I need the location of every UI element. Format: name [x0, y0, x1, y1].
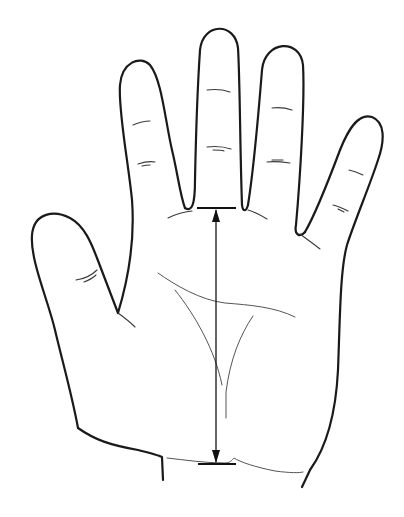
middle-finger-outline — [185, 29, 248, 211]
hand-drawing — [0, 0, 404, 517]
measurement-arrow — [197, 208, 236, 464]
arrow-up-icon — [212, 209, 220, 222]
hand-outline — [32, 29, 383, 487]
wrist-left-edge — [78, 428, 163, 480]
arrow-down-icon — [212, 450, 220, 463]
life-line — [175, 290, 222, 385]
thumb-outline — [32, 214, 118, 428]
little-finger-outline — [302, 116, 383, 487]
wrist-crease — [167, 458, 303, 473]
fate-line — [226, 316, 253, 418]
ring-finger-outline — [248, 46, 305, 235]
palm-lines — [158, 273, 303, 473]
palm-diagram — [0, 0, 404, 517]
index-finger-outline — [118, 61, 185, 313]
